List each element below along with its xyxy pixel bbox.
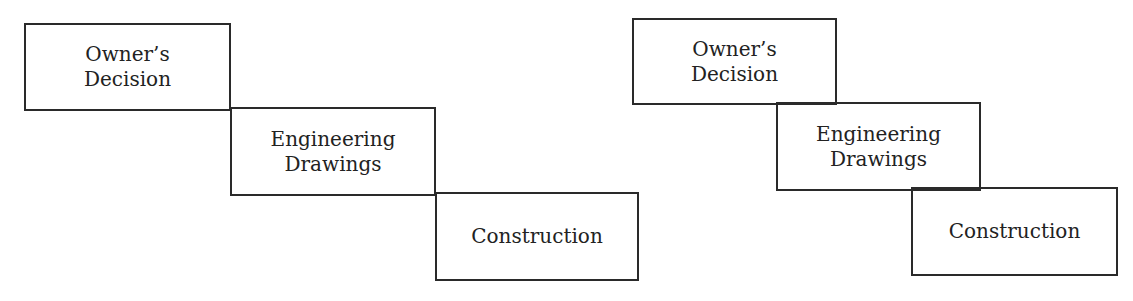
box-label: Decision: [691, 62, 778, 87]
engineering-drawings-box: Engineering Drawings: [776, 102, 981, 191]
owners-decision-box: Owner’s Decision: [632, 18, 837, 105]
construction-box: Construction: [911, 187, 1118, 276]
box-label: Construction: [949, 219, 1081, 244]
box-label: Owner’s: [692, 37, 776, 62]
overlapping-process-diagram: Owner’s Decision Engineering Drawings Co…: [0, 0, 1133, 301]
box-label: Engineering: [816, 122, 941, 147]
box-label: Drawings: [830, 147, 927, 172]
